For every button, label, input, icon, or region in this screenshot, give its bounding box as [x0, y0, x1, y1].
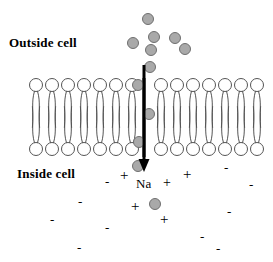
negative-charge-symbol: - [224, 161, 228, 174]
lipid-tail [128, 107, 130, 143]
phospholipid [171, 79, 184, 128]
lipid-tail [54, 107, 56, 143]
phospholipid [155, 107, 168, 156]
negative-charge-symbol: - [249, 178, 253, 191]
lipid-head-icon [30, 79, 43, 92]
phospholipid [219, 107, 232, 156]
lipid-tail [205, 107, 207, 143]
phospholipid [46, 79, 59, 128]
negative-charge-symbol: - [105, 221, 109, 234]
phospholipid [62, 79, 75, 128]
lipid-head-icon [203, 143, 216, 156]
sodium-ion-extracellular [144, 61, 156, 73]
phospholipid [187, 79, 200, 128]
phospholipid [78, 79, 91, 128]
lipid-head-icon [235, 143, 248, 156]
positive-charge-symbol: + [160, 212, 168, 227]
lipid-head-icon [155, 79, 168, 92]
lipid-tail [243, 107, 245, 143]
positive-charge-symbol: + [183, 167, 191, 182]
lipid-head-icon [171, 143, 184, 156]
phospholipid [251, 107, 264, 156]
outside-cell-label: Outside cell [9, 35, 77, 51]
phospholipid [110, 79, 123, 128]
lipid-head-icon [30, 143, 43, 156]
phospholipid [203, 107, 216, 156]
lipid-tail [86, 107, 88, 143]
negative-charge-symbol: - [78, 195, 82, 208]
lipid-tail [157, 107, 159, 143]
lipid-tail [179, 107, 181, 143]
sodium-ion-extracellular [145, 44, 157, 56]
lipid-head-icon [187, 143, 200, 156]
phospholipid [110, 107, 123, 156]
lipid-head-icon [155, 143, 168, 156]
phospholipid [62, 107, 75, 156]
sodium-ion-extracellular [179, 43, 191, 55]
lipid-head-icon [78, 143, 91, 156]
lipid-head-icon [219, 143, 232, 156]
sodium-ion-in-channel [133, 136, 145, 148]
phospholipid [187, 107, 200, 156]
negative-charge-symbol: - [200, 230, 204, 243]
lipid-tail [32, 107, 34, 143]
phospholipid [251, 79, 264, 128]
positive-charge-symbol: + [163, 176, 171, 190]
phospholipid [94, 79, 107, 128]
lipid-tail [173, 107, 175, 143]
lipid-head-icon [110, 143, 123, 156]
lipid-head-icon [251, 79, 264, 92]
phospholipid [30, 79, 43, 128]
lipid-head-icon [94, 143, 107, 156]
negative-charge-symbol: - [105, 175, 109, 188]
lipid-tail [221, 107, 223, 143]
lipid-head-icon [251, 143, 264, 156]
sodium-ion-intracellular [149, 198, 161, 210]
phospholipid [78, 107, 91, 156]
lipid-tail [80, 107, 82, 143]
negative-charge-symbol: - [50, 213, 54, 226]
phospholipid [94, 107, 107, 156]
lipid-head-icon [94, 79, 107, 92]
lipid-head-icon [46, 79, 59, 92]
lipid-tail [64, 107, 66, 143]
sodium-ion-in-channel [132, 79, 144, 91]
phospholipid [46, 107, 59, 156]
lipid-tail [48, 107, 50, 143]
lipid-tail [237, 107, 239, 143]
lipid-tail [70, 107, 72, 143]
lipid-head-icon [203, 79, 216, 92]
lipid-tail [163, 107, 165, 143]
phospholipid [155, 79, 168, 128]
sodium-ion-label: Na [136, 176, 151, 192]
phospholipid [30, 107, 43, 156]
sodium-ion-extracellular [142, 13, 154, 25]
phospholipid [219, 79, 232, 128]
phospholipid [235, 79, 248, 128]
lipid-head-icon [46, 143, 59, 156]
sodium-ion-in-channel [143, 108, 155, 120]
lipid-head-icon [110, 79, 123, 92]
lipid-tail [211, 107, 213, 143]
lipid-head-icon [78, 79, 91, 92]
positive-charge-symbol: + [120, 168, 128, 183]
lipid-tail [96, 107, 98, 143]
lipid-tail [118, 107, 120, 143]
lipid-head-icon [219, 79, 232, 92]
lipid-tail [259, 107, 261, 143]
lipid-head-icon [235, 79, 248, 92]
phospholipid [171, 107, 184, 156]
lipid-tail [195, 107, 197, 143]
lipid-tail [102, 107, 104, 143]
negative-charge-symbol: - [216, 242, 220, 255]
positive-charge-symbol: + [131, 199, 139, 214]
lipid-tail [189, 107, 191, 143]
phospholipid [235, 107, 248, 156]
lipid-tail [112, 107, 114, 143]
phospholipid [203, 79, 216, 128]
lipid-head-icon [62, 79, 75, 92]
inside-cell-label: Inside cell [17, 166, 75, 182]
negative-charge-symbol: - [227, 205, 231, 218]
lipid-tail [253, 107, 255, 143]
lipid-head-icon [171, 79, 184, 92]
